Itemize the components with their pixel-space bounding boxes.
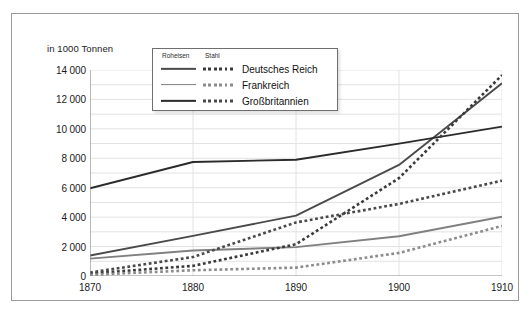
x-tick-label: 1870	[79, 282, 101, 293]
legend-row: Deutsches Reich	[153, 61, 337, 76]
x-axis-tick-labels: 18701880189019001910	[90, 282, 502, 296]
y-tick-label: 6 000	[61, 182, 86, 193]
legend-label: Großbritannien	[242, 95, 309, 106]
x-tick-label: 1900	[388, 282, 410, 293]
chart-legend: Roheisen Stahl Deutsches ReichFrankreich…	[152, 48, 338, 111]
legend-roheisen-swatch	[161, 67, 196, 69]
legend-column-roheisen: Roheisen	[162, 52, 189, 59]
legend-row: Großbritannien	[153, 93, 337, 108]
y-tick-label: 4 000	[61, 212, 86, 223]
legend-stahl-swatch	[203, 99, 235, 102]
y-tick-label: 8 000	[61, 153, 86, 164]
y-tick-label: 12 000	[56, 94, 86, 105]
y-axis-unit-label: in 1000 Tonnen	[47, 43, 113, 54]
y-axis-tick-labels: 02 0004 0006 0008 00010 00012 00014 000	[38, 70, 86, 276]
legend-label: Deutsches Reich	[242, 63, 318, 74]
y-tick-label: 14 000	[56, 65, 86, 76]
y-tick-label: 10 000	[56, 123, 86, 134]
x-tick-label: 1880	[182, 282, 204, 293]
legend-column-stahl: Stahl	[205, 52, 220, 59]
legend-stahl-swatch	[203, 67, 235, 70]
y-tick-label: 0	[81, 271, 86, 282]
y-tick-label: 2 000	[61, 241, 86, 252]
legend-stahl-swatch	[203, 83, 235, 86]
legend-label: Frankreich	[242, 79, 289, 90]
legend-row: Frankreich	[153, 77, 337, 92]
x-tick-label: 1910	[491, 282, 513, 293]
x-tick-label: 1890	[285, 282, 307, 293]
legend-roheisen-swatch	[161, 84, 196, 86]
legend-roheisen-swatch	[161, 99, 196, 101]
chart-frame: in 1000 Tonnen 02 0004 0006 0008 00010 0…	[11, 13, 519, 301]
